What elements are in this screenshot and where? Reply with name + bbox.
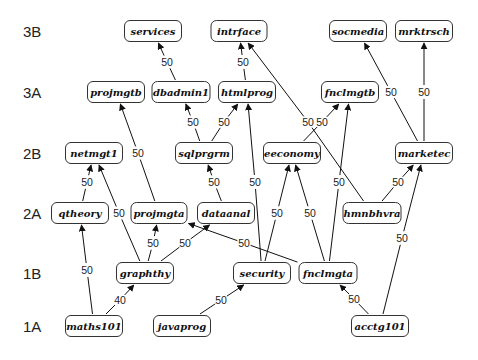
edge-qtheory-to-netmgt1-arrow — [89, 165, 91, 175]
course-node-socmedia[interactable]: socmedia — [329, 20, 387, 42]
edge-projmgta-to-projmgtb-tail — [140, 160, 154, 201]
edge-maths101-to-qtheory-arrow — [81, 225, 86, 263]
course-node-fnclmgta[interactable]: fnclmgta — [299, 262, 358, 284]
edge-eeconomy-to-fnclmgtb-tail — [304, 127, 318, 141]
course-node-javaprog[interactable]: javaprog — [153, 315, 211, 337]
edge-marketec-to-socmedia-arrow — [364, 43, 387, 86]
edge-weight-label: 50 — [81, 176, 93, 188]
edge-security-to-htmlprog-tail — [256, 189, 262, 261]
edge-sqlprgrm-to-dbadmin1-tail — [195, 129, 199, 141]
edge-hmnbhvra-to-intrface-arrow — [248, 43, 304, 116]
edge-fnclmgta-to-eeconomy-arrow — [296, 165, 308, 206]
edge-dataanal-to-sqlprgrm-arrow — [208, 165, 212, 175]
edge-weight-label: 50 — [333, 176, 345, 188]
edge-weight-label: 50 — [316, 116, 328, 128]
edge-weight-label: 50 — [113, 207, 125, 219]
edge-fnclmgta-to-projmgta-arrow — [189, 223, 238, 240]
course-node-dbadmin1[interactable]: dbadmin1 — [152, 81, 211, 103]
edge-sqlprgrm-to-htmlprog-tail — [212, 128, 220, 141]
row-label-3a: 3A — [23, 84, 41, 101]
row-label-3b: 3B — [23, 23, 41, 40]
edge-weight-label: 50 — [208, 176, 220, 188]
prerequisite-diagram: 5050505050505050505050505050505050505050… — [0, 0, 478, 360]
edge-weight-label: 50 — [237, 56, 249, 68]
edge-security-to-eeconomy-tail — [265, 220, 275, 261]
edge-weight-label: 50 — [218, 116, 230, 128]
edge-graphthy-to-netmgt1-tail — [122, 219, 140, 261]
edge-javaprog-to-security-arrow — [227, 285, 244, 296]
edge-weight-label: 50 — [132, 147, 144, 159]
edge-dbadmin1-to-services-arrow — [158, 43, 164, 56]
course-node-projmgta[interactable]: projmgta — [131, 202, 188, 224]
course-node-qtheory[interactable]: qtheory — [51, 202, 109, 224]
row-label-1b: 1B — [23, 265, 41, 282]
edge-maths101-to-qtheory-tail — [88, 277, 93, 314]
edge-fnclmgta-to-fnclmgtb-arrow — [340, 104, 349, 175]
edge-eeconomy-to-fnclmgtb-arrow — [327, 104, 339, 117]
course-node-htmlprog[interactable]: htmlprog — [218, 81, 276, 103]
edge-graphthy-to-projmgta-tail — [148, 250, 151, 261]
edge-acctg101-to-marketec-arrow — [404, 165, 421, 231]
edge-graphthy-to-projmgta-arrow — [154, 225, 156, 236]
edge-hmnbhvra-to-marketec-tail — [382, 187, 393, 201]
course-node-graphthy[interactable]: graphthy — [116, 262, 174, 284]
edge-weight-label: 50 — [348, 293, 360, 305]
edge-weight-label: 50 — [304, 207, 316, 219]
edge-weight-label: 50 — [271, 207, 283, 219]
course-node-dataanal[interactable]: dataanal — [197, 202, 255, 224]
edge-weight-label: 50 — [385, 86, 397, 98]
course-node-eeconomy[interactable]: eeconomy — [263, 142, 321, 164]
row-label-1a: 1A — [23, 318, 41, 335]
course-node-projmgtb[interactable]: projmgtb — [87, 81, 145, 103]
edge-security-to-htmlprog-arrow — [248, 104, 254, 175]
edge-fnclmgta-to-fnclmgtb-tail — [329, 189, 338, 261]
edge-dbadmin1-to-services-tail — [170, 68, 175, 80]
edge-sqlprgrm-to-dbadmin1-arrow — [186, 104, 191, 116]
edge-hmnbhvra-to-marketec-arrow — [403, 165, 414, 177]
edges-layer: 5050505050505050505050505050505050505050… — [0, 0, 478, 360]
edge-weight-label: 50 — [249, 176, 261, 188]
edge-weight-label: 50 — [81, 264, 93, 276]
edge-maths101-to-graphthy-arrow — [125, 285, 134, 295]
edge-graphthy-to-netmgt1-arrow — [99, 165, 116, 207]
edge-graphthy-to-dataanal-tail — [161, 247, 179, 261]
course-node-security[interactable]: security — [233, 262, 291, 284]
course-node-fnclmgtb[interactable]: fnclmgtb — [321, 81, 379, 103]
edge-javaprog-to-security-tail — [200, 304, 215, 314]
course-node-marketec[interactable]: marketec — [395, 142, 453, 164]
edge-htmlprog-to-intrface-arrow — [241, 43, 243, 55]
edge-security-to-eeconomy-arrow — [279, 165, 289, 206]
edge-htmlprog-to-intrface-tail — [244, 69, 245, 80]
course-node-mrktrsch[interactable]: mrktrsch — [395, 20, 453, 42]
edge-qtheory-to-netmgt1-tail — [83, 189, 86, 201]
edge-dataanal-to-sqlprgrm-tail — [217, 189, 222, 201]
edge-weight-label: 50 — [179, 237, 191, 249]
edge-weight-label: 50 — [302, 116, 314, 128]
edge-fnclmgta-to-projmgta-tail — [251, 245, 298, 262]
edge-projmgta-to-projmgtb-arrow — [120, 104, 135, 146]
course-node-netmgt1[interactable]: netmgt1 — [65, 142, 123, 164]
course-node-maths101[interactable]: maths101 — [65, 315, 123, 337]
row-label-2a: 2A — [23, 205, 41, 222]
edge-sqlprgrm-to-htmlprog-arrow — [228, 104, 238, 116]
edge-acctg101-to-marketec-tail — [383, 245, 400, 314]
course-node-acctg101[interactable]: acctg101 — [351, 315, 409, 337]
course-node-intrface[interactable]: intrface — [211, 20, 268, 42]
edge-maths101-to-graphthy-tail — [106, 305, 115, 314]
edge-acctg101-to-fnclmgta-tail — [359, 304, 369, 314]
edge-weight-label: 50 — [396, 232, 408, 244]
edge-weight-label: 50 — [392, 176, 404, 188]
edge-weight-label: 50 — [161, 56, 173, 68]
edge-weight-label: 50 — [147, 237, 159, 249]
edge-weight-label: 50 — [418, 86, 430, 98]
edge-weight-label: 50 — [215, 294, 227, 306]
course-node-services[interactable]: services — [124, 20, 182, 42]
edge-weight-label: 40 — [114, 294, 126, 306]
edge-weight-label: 50 — [238, 237, 250, 249]
row-label-2b: 2B — [23, 145, 41, 162]
course-node-hmnbhvra[interactable]: hmnbhvra — [343, 202, 402, 224]
course-node-sqlprgrm[interactable]: sqlprgrm — [175, 142, 233, 164]
edge-weight-label: 50 — [187, 116, 199, 128]
edge-fnclmgta-to-eeconomy-tail — [312, 220, 324, 261]
edge-marketec-to-socmedia-tail — [394, 98, 417, 141]
